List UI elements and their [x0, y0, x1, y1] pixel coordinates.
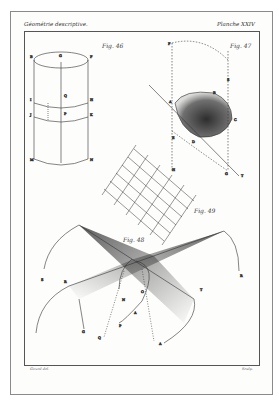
svg-text:A: A	[168, 100, 172, 104]
figure-46-cylinder: B F G I H J K Q P M N	[29, 52, 93, 165]
svg-text:Q: Q	[98, 336, 101, 340]
svg-text:G: G	[59, 54, 62, 58]
svg-text:F: F	[90, 55, 93, 59]
svg-text:O: O	[141, 290, 144, 294]
svg-text:T: T	[241, 174, 244, 178]
figure-48-surfaces: S R R T N O P Q A A G	[36, 225, 243, 346]
svg-text:K: K	[90, 113, 93, 117]
svg-text:B: B	[213, 91, 216, 95]
svg-text:A: A	[133, 311, 137, 315]
figure-48-label: Fig. 48	[122, 236, 145, 244]
plate-number: Planche XXIV	[217, 21, 255, 27]
svg-text:N: N	[90, 158, 93, 162]
figure-47-section: A B C D E F G H S T	[149, 41, 244, 178]
plate-footer-draftsman: Girard del.	[30, 367, 49, 371]
svg-text:R: R	[64, 280, 67, 284]
svg-text:H: H	[172, 168, 175, 172]
plate-header-title: Géométrie descriptive.	[24, 21, 88, 27]
svg-text:R: R	[240, 274, 243, 278]
svg-text:D: D	[192, 140, 195, 144]
figure-49-label: Fig. 49	[193, 207, 216, 215]
svg-text:P: P	[64, 112, 67, 116]
svg-text:C: C	[234, 118, 237, 122]
figure-49-grid	[102, 145, 196, 245]
svg-text:G: G	[225, 172, 228, 176]
svg-text:E: E	[172, 136, 175, 140]
svg-text:Q: Q	[64, 94, 67, 98]
svg-text:M: M	[30, 158, 34, 162]
figure-46-label: Fig. 46	[101, 42, 124, 50]
svg-text:A: A	[158, 342, 162, 346]
svg-text:B: B	[30, 55, 33, 59]
plate-footer-engraver: Sculp.	[242, 367, 253, 371]
svg-text:G: G	[82, 330, 85, 334]
svg-text:J: J	[29, 113, 32, 117]
svg-text:F: F	[168, 42, 171, 46]
figure-47-label: Fig. 47	[229, 42, 252, 50]
svg-text:P: P	[119, 324, 122, 328]
svg-text:S: S	[227, 78, 230, 82]
engraving-plate: B F G I H J K Q P M N Fig. 46 A B C D E …	[24, 31, 260, 366]
svg-text:H: H	[90, 98, 93, 102]
svg-text:S: S	[41, 278, 44, 282]
svg-text:T: T	[200, 288, 203, 292]
svg-text:N: N	[122, 298, 125, 302]
svg-text:I: I	[30, 98, 32, 102]
